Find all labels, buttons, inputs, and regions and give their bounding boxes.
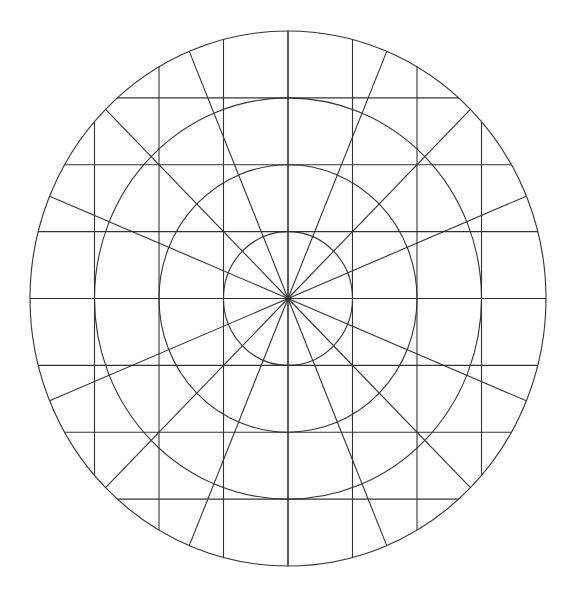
polar-grid-diagram (0, 0, 575, 597)
center-point (286, 296, 290, 300)
